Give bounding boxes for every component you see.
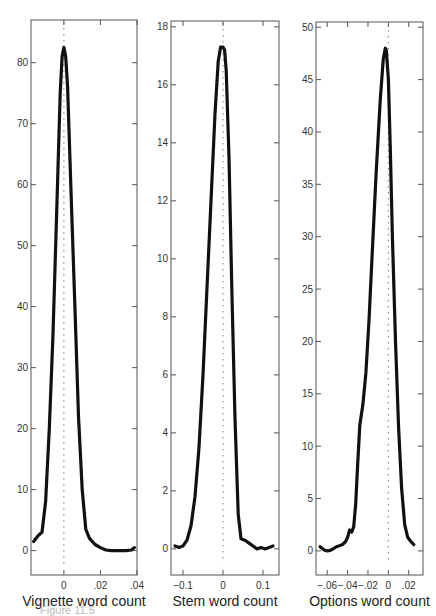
- y-tick-label: 0: [22, 545, 28, 556]
- y-tick-label: 10: [302, 441, 314, 452]
- density-curve: [34, 47, 135, 550]
- y-tick-label: 2: [162, 485, 168, 496]
- y-tick-label: 4: [162, 427, 168, 438]
- x-tick-label: .02: [402, 580, 416, 591]
- y-tick-label: 14: [157, 137, 169, 148]
- y-tick-label: 35: [302, 179, 314, 190]
- y-tick-label: 60: [17, 179, 29, 190]
- y-tick-label: 0: [307, 545, 313, 556]
- y-tick-label: 30: [302, 231, 314, 242]
- y-tick-label: 50: [17, 240, 29, 251]
- x-tick-label: −0.1: [173, 580, 193, 591]
- figure: 010203040506070800.02.04Vignette word co…: [0, 0, 436, 616]
- y-tick-label: 30: [17, 362, 29, 373]
- panel-options: 05101520253035404550−.06−.04−.020.02Opti…: [302, 22, 430, 609]
- x-tick-label: −.04: [338, 580, 358, 591]
- x-tick-label: 0: [386, 580, 392, 591]
- density-curve: [320, 48, 414, 551]
- y-tick-label: 15: [302, 388, 314, 399]
- y-tick-label: 5: [307, 493, 313, 504]
- panel-vignette: 010203040506070800.02.04Vignette word co…: [17, 20, 146, 609]
- figure-caption: Figure 11.5: [40, 604, 95, 616]
- y-tick-label: 40: [17, 301, 29, 312]
- y-tick-label: 10: [17, 484, 29, 495]
- panel-stem: 024681012141618−0.100.1Stem word count: [157, 21, 279, 609]
- y-tick-label: 12: [157, 195, 169, 206]
- y-tick-label: 18: [157, 21, 169, 32]
- y-tick-label: 70: [17, 118, 29, 129]
- x-tick-label: −.06: [317, 580, 337, 591]
- y-tick-label: 20: [17, 423, 29, 434]
- y-tick-label: 25: [302, 284, 314, 295]
- x-tick-label: 0: [61, 580, 67, 591]
- density-curve: [175, 47, 273, 549]
- x-tick-label: −.02: [358, 580, 378, 591]
- y-tick-label: 40: [302, 126, 314, 137]
- x-axis-title: Options word count: [309, 593, 430, 609]
- x-tick-label: 0.1: [256, 580, 270, 591]
- x-tick-label: .04: [130, 580, 144, 591]
- y-tick-label: 45: [302, 74, 314, 85]
- x-tick-label: 0: [220, 580, 226, 591]
- y-tick-label: 16: [157, 79, 169, 90]
- plot-frame: [171, 21, 279, 575]
- y-tick-label: 10: [157, 253, 169, 264]
- y-tick-label: 0: [162, 543, 168, 554]
- y-tick-label: 6: [162, 369, 168, 380]
- y-tick-label: 20: [302, 336, 314, 347]
- y-tick-label: 80: [17, 57, 29, 68]
- x-tick-label: .02: [93, 580, 107, 591]
- y-tick-label: 8: [162, 311, 168, 322]
- y-tick-label: 50: [302, 22, 314, 33]
- x-axis-title: Stem word count: [172, 593, 277, 609]
